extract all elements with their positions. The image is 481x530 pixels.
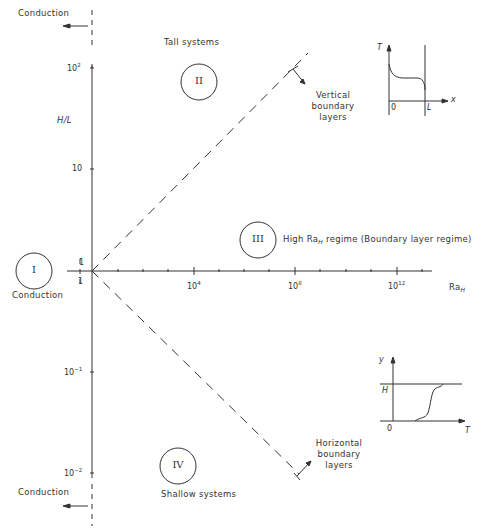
x-axis-label: RaH (449, 282, 465, 293)
inset-top-y-label: T (377, 43, 382, 52)
x-tick-1e4: 104 (187, 280, 201, 291)
horizontal-bl-limit-line (92, 271, 299, 474)
region-i-numeral: I (16, 264, 52, 275)
y-tick-100: 102 (67, 62, 81, 73)
conduction-label-bottom: Conduction (18, 487, 69, 497)
tall-systems-label: Tall systems (164, 37, 219, 47)
x-tick-1e8: 108 (288, 280, 302, 291)
inset-top-end: L (427, 103, 431, 112)
inset-top-x-label: x (451, 95, 456, 104)
inset-horizontal-profile (380, 357, 465, 423)
x-tick-1e12: 1012 (388, 280, 405, 291)
y-tick-0.1: 10−1 (64, 366, 82, 377)
y-tick-0.01: 10−2 (64, 467, 82, 478)
y-tick-10: 10 (72, 164, 82, 173)
shallow-systems-label: Shallow systems (161, 489, 236, 499)
inset-bottom-zero: 0 (387, 424, 392, 433)
y-axis-label: H/L (57, 115, 72, 125)
horizontal-bl-label: Horizontal boundary layers (313, 438, 365, 471)
inset-bottom-x-label: T (465, 426, 470, 435)
region-iv-numeral: IV (160, 459, 196, 470)
high-ra-regime-label: High RaH regime (Boundary layer regime) (283, 234, 472, 245)
inset-top-zero: 0 (391, 103, 396, 112)
conduction-label-top: Conduction (18, 8, 69, 18)
inset-bottom-end: H (382, 386, 388, 395)
x-tick-1: 1 (78, 277, 83, 286)
inset-bottom-y-label: y (379, 355, 384, 364)
conduction-label-left: Conduction (12, 290, 63, 300)
regime-diagram-canvas (0, 0, 481, 530)
region-ii-numeral: II (181, 75, 217, 86)
y-tick-1: 1 (79, 258, 84, 267)
region-iii-numeral: III (240, 233, 276, 244)
vertical-bl-label: Vertical boundary layers (310, 90, 356, 123)
inset-vertical-profile (387, 45, 448, 116)
